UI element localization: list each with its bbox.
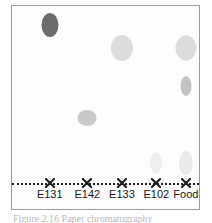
chromatogram-spot [180, 76, 191, 96]
chromatogram-spot [41, 13, 58, 37]
lane-label-food: Food [173, 188, 198, 201]
lane-label-e133: E133 [109, 188, 135, 201]
lane-label-e102: E102 [144, 188, 170, 201]
chromatogram-spot [150, 153, 162, 174]
origin-baseline [12, 183, 199, 185]
chromatogram-figure: E131E142E133E102Food Figure 2.16 Paper c… [0, 0, 212, 223]
chromatography-plate-surface: E131E142E133E102Food [12, 6, 199, 209]
origin-cross-icon [82, 177, 93, 188]
chromatogram-spot [179, 151, 193, 175]
chromatography-plate-frame: E131E142E133E102Food [11, 5, 200, 210]
figure-caption: Figure 2.16 Paper chromatography [13, 213, 209, 223]
lane-label-e131: E131 [37, 188, 63, 201]
lane-label-e142: E142 [75, 188, 101, 201]
chromatogram-spot [111, 35, 133, 61]
origin-cross-icon [44, 177, 55, 188]
origin-cross-icon [151, 177, 162, 188]
chromatogram-spot [175, 35, 196, 60]
origin-cross-icon [180, 177, 191, 188]
chromatogram-spot [78, 110, 97, 126]
origin-cross-icon [116, 177, 127, 188]
